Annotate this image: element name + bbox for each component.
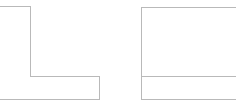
divided-rectangle (141, 7, 236, 99)
shapes-drawing (0, 0, 236, 109)
drawing-canvas (0, 0, 236, 109)
